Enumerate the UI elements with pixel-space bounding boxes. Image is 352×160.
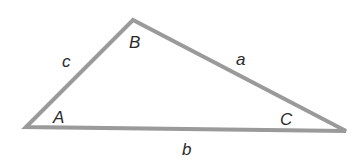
side-label-a: a bbox=[236, 50, 245, 69]
vertex-label-a: A bbox=[52, 108, 64, 127]
triangle-abc bbox=[26, 20, 346, 131]
side-label-c: c bbox=[62, 52, 71, 71]
triangle-diagram: c B a A C b bbox=[0, 0, 352, 160]
side-label-b: b bbox=[182, 140, 191, 159]
vertex-label-c: C bbox=[280, 110, 293, 129]
vertex-label-b: B bbox=[129, 33, 140, 52]
